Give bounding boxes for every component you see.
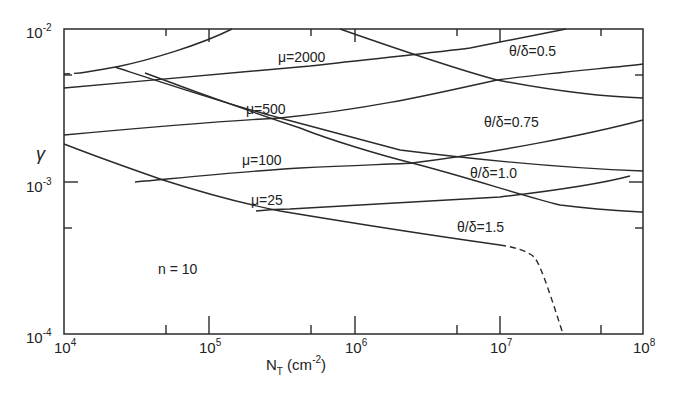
curve-mu-25 <box>256 176 630 211</box>
label-mu-100: μ=100 <box>242 152 282 168</box>
label-theta-delta-0.5: θ/δ=0.5 <box>509 43 556 59</box>
curve-theta-delta-1.5-dashed <box>500 245 563 334</box>
curve-mu-100 <box>135 120 643 182</box>
x-tick-label-1e6: 106 <box>345 337 368 356</box>
x-axis-ticks <box>166 316 601 334</box>
x-tick-label-1e8: 108 <box>633 337 656 356</box>
y-axis-label: γ <box>36 144 46 164</box>
y-tick-label-1e-4: 10-4 <box>26 327 52 346</box>
curve-theta-delta-1.0 <box>145 73 643 212</box>
curve-mu-2000-dashed-start <box>64 73 80 74</box>
label-mu-2000: μ=2000 <box>278 49 326 65</box>
annotation-n: n = 10 <box>158 261 198 277</box>
x-tick-label-1e4: 104 <box>54 337 77 356</box>
label-theta-delta-1.0: θ/δ=1.0 <box>470 165 517 181</box>
x-tick-label-1e5: 105 <box>199 337 222 356</box>
label-theta-delta-0.75: θ/δ=0.75 <box>484 114 539 130</box>
label-mu-500: μ=500 <box>246 101 286 117</box>
label-mu-25: μ=25 <box>251 192 283 208</box>
y-tick-label-1e-2: 10-2 <box>26 22 52 41</box>
chart: μ=2000 μ=500 μ=100 μ=25 θ/δ=0.5 θ/δ=0.75… <box>0 0 678 394</box>
x-tick-label-1e7: 107 <box>490 337 513 356</box>
y-tick-label-1e-3: 10-3 <box>26 176 52 195</box>
x-axis-label: NT (cm-2) <box>266 354 326 377</box>
curve-theta-delta-0.5 <box>340 29 643 98</box>
label-theta-delta-1.5: θ/δ=1.5 <box>457 219 504 235</box>
curve-theta-delta-0.75 <box>115 67 643 171</box>
